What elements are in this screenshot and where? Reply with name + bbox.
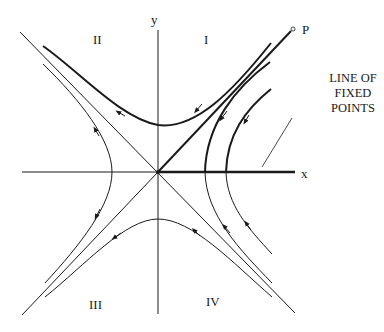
phase-portrait [0,0,384,332]
left-hyperbola-trajectory [43,64,112,283]
y-axis-label: y [151,13,158,26]
right-curve-outer-upper [226,89,271,172]
quadrant-II-label: II [93,33,102,46]
annotation-line-3: POINTS [318,101,384,116]
x-axis-label: x [301,167,308,180]
upper-hyperbola-trajectory [43,43,271,125]
quadrant-I-label: I [204,33,208,46]
trajectory-to-P [158,31,291,172]
arrow-upper-left [118,112,125,116]
arrow-right-outer-bottom [246,223,251,230]
arrow-lower-right [194,230,200,236]
annotation-line-2: FIXED [318,86,384,101]
quadrant-III-label: III [89,298,102,311]
arrow-upper-right [196,104,202,111]
line-of-fixed-points-label: LINE OF FIXED POINTS [318,71,384,116]
origin-fixed-point [156,170,160,174]
right-curve-outer-lower [226,172,272,254]
diagonal-asymptote-2-lower [22,172,158,315]
right-curve-inner-upper [205,62,270,172]
quadrant-IV-label: IV [206,295,220,308]
arrow-lower-left [114,233,121,238]
annotation-pointer-line [262,118,292,167]
point-P-label: P [302,23,309,36]
annotation-line-1: LINE OF [318,71,384,86]
point-P-marker [291,27,295,31]
